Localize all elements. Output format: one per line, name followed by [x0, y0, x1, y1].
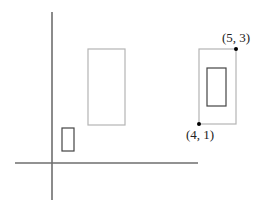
point-top-right	[234, 47, 238, 51]
small-dark-rect	[62, 128, 74, 151]
right-light-rect	[199, 49, 236, 124]
point-label-bottom-left: (4, 1)	[186, 127, 214, 142]
right-inner-dark-rect	[207, 68, 226, 106]
diagram-canvas: (5, 3) (4, 1)	[0, 0, 265, 206]
point-label-top-right: (5, 3)	[222, 30, 250, 45]
point-bottom-left	[197, 122, 201, 126]
middle-light-rect	[88, 49, 125, 125]
